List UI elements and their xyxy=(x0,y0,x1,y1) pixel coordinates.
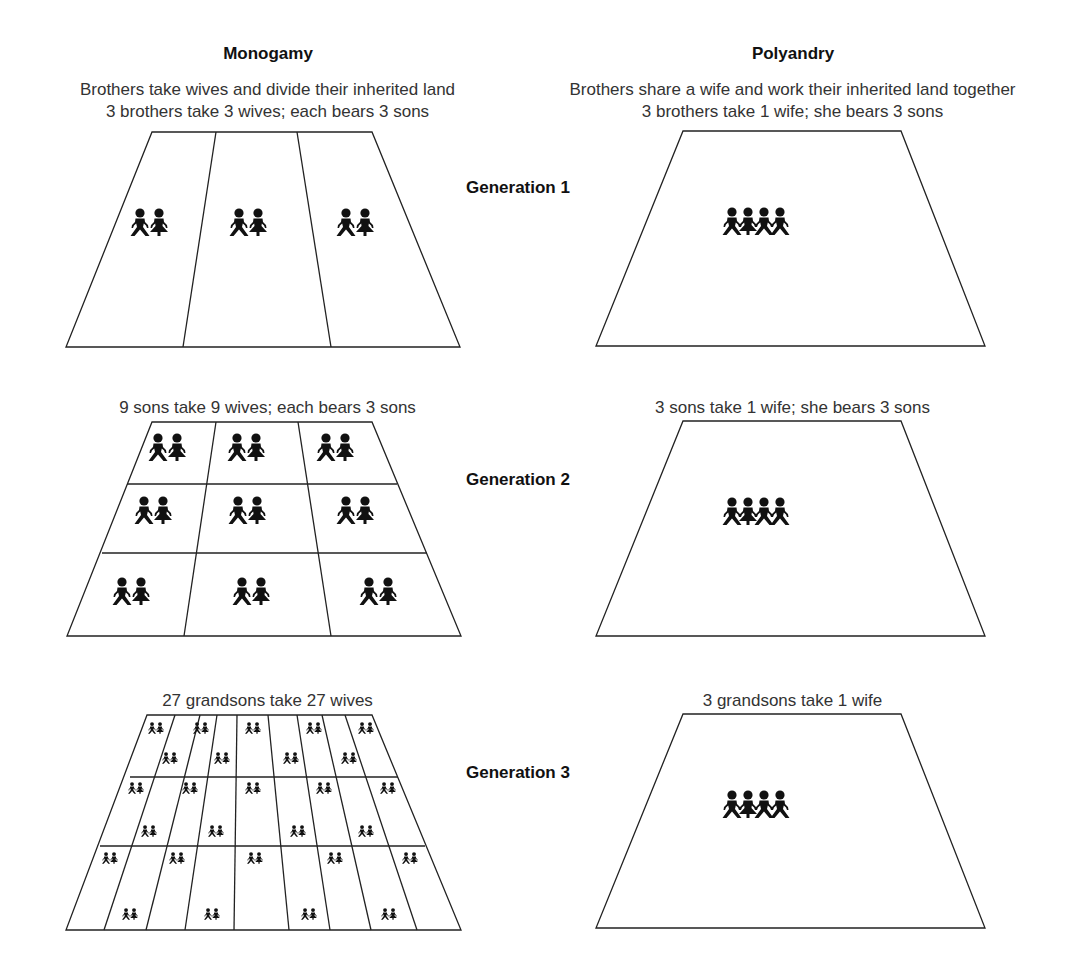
inheritance-diagram xyxy=(0,0,1065,966)
monogamy-gen3-land xyxy=(66,715,461,930)
polyandry-gen3-land xyxy=(596,714,985,928)
polyandry-gen2-land xyxy=(596,421,985,636)
monogamy-gen2-land xyxy=(67,422,461,636)
polyandry-gen1-land xyxy=(596,131,985,346)
monogamy-gen1-land xyxy=(66,132,460,347)
